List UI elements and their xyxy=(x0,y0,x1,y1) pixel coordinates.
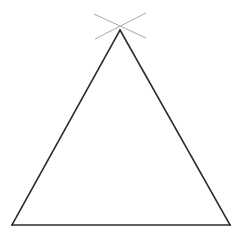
construction-line-nw-se-icon xyxy=(94,14,146,38)
triangle-left-side xyxy=(12,30,120,225)
triangle-group xyxy=(12,30,230,225)
figure-canvas xyxy=(0,0,242,238)
triangle-right-side xyxy=(120,30,230,225)
construction-marks-group xyxy=(94,13,146,39)
geometry-figure xyxy=(0,0,242,238)
